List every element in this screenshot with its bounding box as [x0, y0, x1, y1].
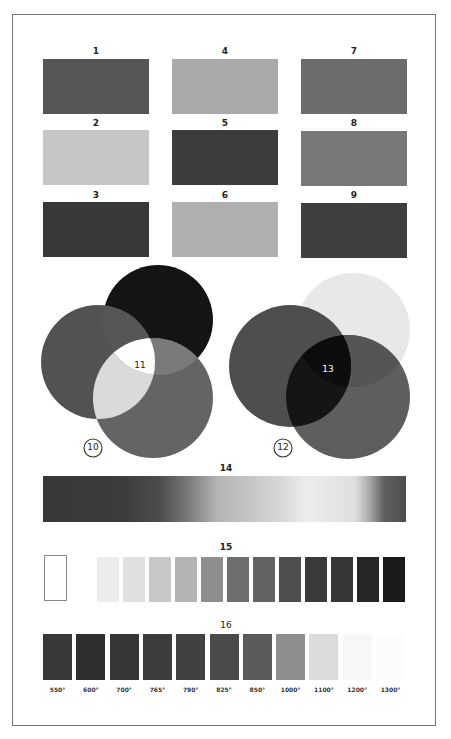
gray-swatch [97, 557, 119, 602]
gray-swatch [227, 557, 249, 602]
temperature-swatch [76, 634, 105, 680]
diagram-10-label: 10 [87, 442, 98, 452]
gray-swatch [149, 557, 171, 602]
gray-swatch [201, 557, 223, 602]
gray-swatch [253, 557, 275, 602]
temperature-swatch [376, 634, 405, 680]
temperature-swatch [210, 634, 239, 680]
gray-swatch [175, 557, 197, 602]
gray-swatch [383, 557, 405, 602]
diagram-13-label: 13 [322, 364, 333, 374]
temperature-swatch [176, 634, 205, 680]
gray-swatch [305, 557, 327, 602]
diagram-11-label: 11 [134, 360, 145, 370]
gray-swatch [279, 557, 301, 602]
gradient-bar-label: 14 [220, 463, 233, 473]
additive-diagram [41, 265, 213, 458]
temperature-swatch [276, 634, 305, 680]
temperature-scale-label: 16 [220, 620, 231, 630]
gray-swatch [331, 557, 353, 602]
gray-swatch [123, 557, 145, 602]
temperature-label: 1300° [371, 686, 411, 693]
temperature-swatch [43, 634, 72, 680]
subtractive-diagram [229, 273, 410, 459]
temperature-swatch [243, 634, 272, 680]
diagram-12-label: 12 [277, 442, 288, 452]
temperature-swatch [343, 634, 372, 680]
temperature-swatch [110, 634, 139, 680]
temperature-swatch [143, 634, 172, 680]
temperature-swatch [309, 634, 338, 680]
gradient-bar [43, 476, 406, 522]
white-reference-box [44, 555, 67, 601]
gray-scale-label: 15 [220, 542, 233, 552]
gray-swatch [357, 557, 379, 602]
